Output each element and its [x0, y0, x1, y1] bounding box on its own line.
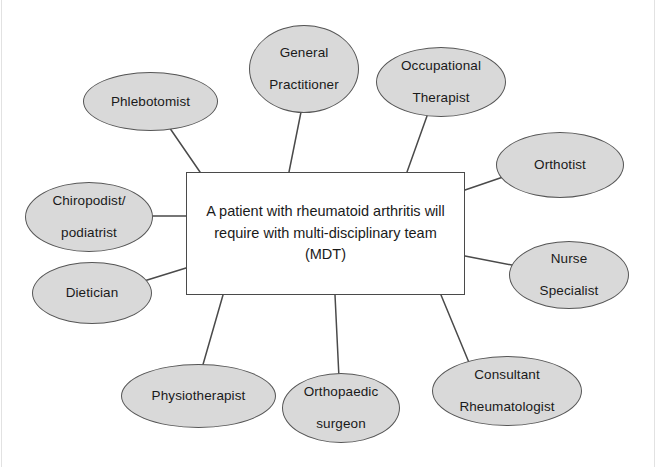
diagram-canvas: A patient with rheumatoid arthritis will…: [0, 0, 658, 467]
connector-dietician: [144, 268, 186, 281]
node-consultant-rheumatologist[interactable]: Consultant Rheumatologist: [432, 356, 582, 426]
node-orthopaedic-surgeon-line-2: surgeon: [298, 416, 385, 432]
node-physiotherapist[interactable]: Physiotherapist: [121, 364, 276, 428]
node-consultant-rheumatologist-label: Consultant Rheumatologist: [447, 367, 566, 415]
node-nurse-specialist-label: Nurse Specialist: [528, 251, 611, 299]
node-occupational-therapist-line-1: Occupational: [395, 58, 487, 74]
node-consultant-rheumatologist-line-2: Rheumatologist: [453, 399, 560, 415]
node-nurse-specialist[interactable]: Nurse Specialist: [509, 241, 629, 309]
central-statement-text: A patient with rheumatoid arthritis will…: [187, 201, 464, 266]
connector-phlebotomist: [167, 124, 200, 172]
connector-occupational-therapist: [407, 116, 427, 172]
node-phlebotomist[interactable]: Phlebotomist: [83, 72, 218, 131]
node-dietician-label: Dietician: [60, 285, 125, 301]
central-statement-line-1: A patient with rheumatoid arthritis: [206, 203, 420, 219]
node-dietician[interactable]: Dietician: [32, 262, 152, 324]
node-chiropodist-podiatrist-label: Chiropodist/ podiatrist: [40, 193, 137, 241]
connector-physiotherapist: [202, 295, 223, 368]
node-orthopaedic-surgeon-label: Orthopaedic surgeon: [292, 384, 391, 432]
node-general-practitioner-line-2: Practitioner: [263, 77, 344, 93]
node-occupational-therapist[interactable]: Occupational Therapist: [376, 47, 506, 117]
node-occupational-therapist-line-2: Therapist: [395, 90, 487, 106]
connector-orthotist: [465, 176, 506, 190]
node-orthopaedic-surgeon[interactable]: Orthopaedic surgeon: [282, 373, 400, 443]
connector-nurse-specialist: [465, 256, 517, 266]
connector-consultant-rheumatologist: [441, 295, 470, 365]
node-consultant-rheumatologist-line-1: Consultant: [453, 367, 560, 383]
node-chiropodist-podiatrist-line-2: podiatrist: [46, 225, 131, 241]
node-orthotist[interactable]: Orthotist: [496, 132, 624, 198]
node-orthotist-label: Orthotist: [528, 157, 592, 173]
node-general-practitioner-line-1: General: [263, 45, 344, 61]
central-statement-box: A patient with rheumatoid arthritis will…: [186, 172, 465, 295]
node-nurse-specialist-line-1: Nurse: [534, 251, 605, 267]
node-chiropodist-podiatrist[interactable]: Chiropodist/ podiatrist: [25, 182, 153, 252]
node-chiropodist-podiatrist-line-1: Chiropodist/: [46, 193, 131, 209]
connector-general-practitioner: [289, 112, 301, 172]
node-orthopaedic-surgeon-line-1: Orthopaedic: [298, 384, 385, 400]
node-physiotherapist-label: Physiotherapist: [146, 388, 252, 404]
node-occupational-therapist-label: Occupational Therapist: [389, 58, 493, 106]
connector-orthopaedic-surgeon: [335, 295, 339, 378]
node-phlebotomist-label: Phlebotomist: [105, 94, 196, 110]
node-nurse-specialist-line-2: Specialist: [534, 283, 605, 299]
node-general-practitioner-label: General Practitioner: [257, 45, 350, 93]
node-general-practitioner[interactable]: General Practitioner: [249, 25, 359, 113]
